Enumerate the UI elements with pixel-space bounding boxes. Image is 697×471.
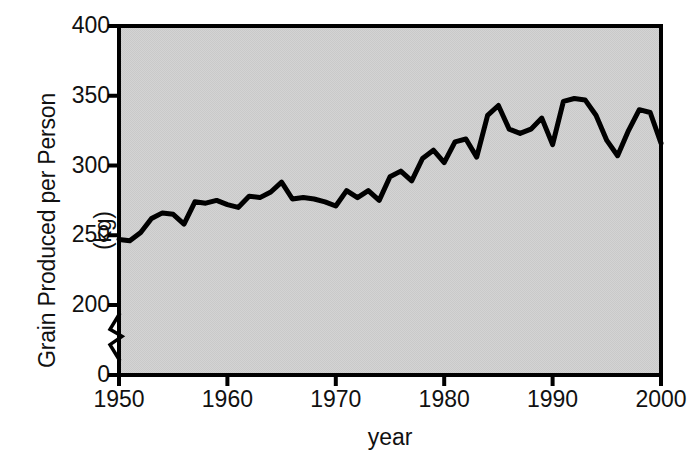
- plot-area: [0, 0, 697, 471]
- chart-figure: Grain Produced per Person (kg) 020025030…: [0, 0, 697, 471]
